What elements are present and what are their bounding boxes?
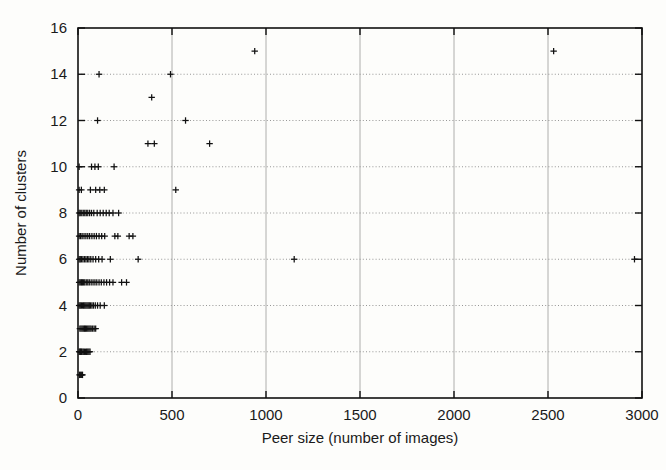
y-tick-label: 12 bbox=[50, 112, 67, 129]
y-tick-label: 10 bbox=[50, 158, 67, 175]
x-tick-label: 3000 bbox=[625, 406, 658, 423]
y-tick-label: 8 bbox=[59, 204, 67, 221]
y-axis-title: Number of clusters bbox=[12, 150, 29, 276]
scatter-plot-canvas: 0246810121416 050010001500200025003000 P… bbox=[0, 0, 666, 470]
x-tick-label: 1500 bbox=[343, 406, 376, 423]
x-tick-label: 0 bbox=[74, 406, 82, 423]
y-tick-label: 14 bbox=[50, 65, 67, 82]
x-tick-label: 2000 bbox=[437, 406, 470, 423]
y-tick-label: 16 bbox=[50, 19, 67, 36]
scatter-plot-figure: 0246810121416 050010001500200025003000 P… bbox=[0, 0, 666, 470]
x-tick-label: 500 bbox=[159, 406, 184, 423]
figure-background bbox=[0, 0, 666, 470]
x-tick-label: 1000 bbox=[249, 406, 282, 423]
y-tick-label: 6 bbox=[59, 250, 67, 267]
y-tick-label: 0 bbox=[59, 389, 67, 406]
x-axis-title: Peer size (number of images) bbox=[262, 429, 459, 446]
x-tick-label: 2500 bbox=[531, 406, 564, 423]
y-tick-label: 2 bbox=[59, 343, 67, 360]
y-tick-label: 4 bbox=[59, 297, 67, 314]
